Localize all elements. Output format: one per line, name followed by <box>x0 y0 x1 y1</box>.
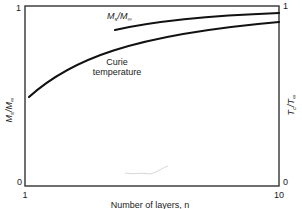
y-right-tick-bottom: 0 <box>283 177 288 187</box>
chart: 1 0 1 0 1 10 Number of layers, n Ms/M∞ T… <box>0 0 302 209</box>
x-tick-left: 1 <box>22 190 27 200</box>
curie-series-label-line2: temperature <box>93 67 142 77</box>
y-right-tick-top: 1 <box>283 1 288 11</box>
ms-curve <box>115 13 279 30</box>
scan-artifact <box>125 166 168 174</box>
y-axis-label-right: Tc/T∞ <box>286 95 297 116</box>
ms-series-label: Ms/M∞ <box>107 11 132 22</box>
y-left-tick-bottom: 0 <box>17 177 22 187</box>
curie-curve <box>29 22 279 97</box>
plot-frame <box>25 6 279 186</box>
x-axis-label: Number of layers, n <box>111 200 190 209</box>
y-left-tick-top: 1 <box>16 3 21 13</box>
y-axis-label-left: Ms/M∞ <box>4 98 15 123</box>
curie-series-label-line1: Curie <box>106 57 128 67</box>
x-tick-right: 10 <box>274 190 284 200</box>
